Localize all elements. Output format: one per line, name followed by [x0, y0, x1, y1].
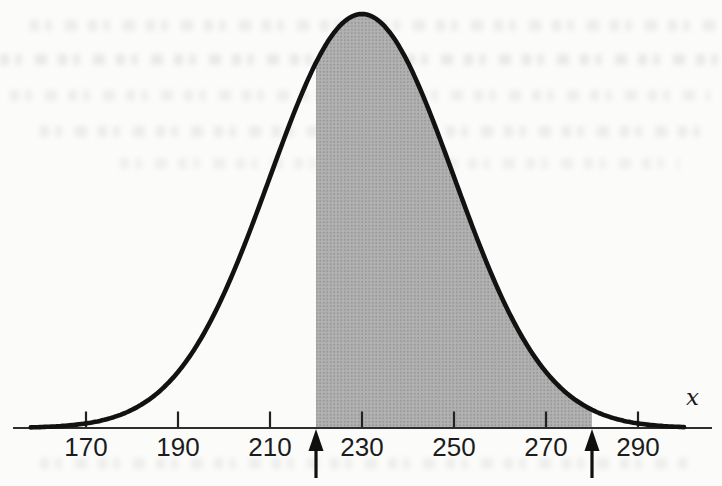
axis-tick-label: 290 — [616, 432, 659, 462]
normal-curve-figure: 170190210230250270290 — [0, 0, 722, 486]
axis-tick-label: 250 — [432, 432, 475, 462]
shaded-probability-area — [316, 14, 592, 428]
axis-tick-label: 270 — [524, 432, 567, 462]
boundary-arrow-stem — [314, 449, 317, 478]
boundary-arrow-stem — [590, 449, 593, 478]
x-axis-label: x — [686, 386, 699, 409]
axis-tick-label: 170 — [64, 432, 107, 462]
axis-tick-label: 210 — [248, 432, 291, 462]
scanned-page: 170190210230250270290 x — [0, 0, 722, 486]
axis-tick-label: 230 — [340, 432, 383, 462]
axis-tick-label: 190 — [156, 432, 199, 462]
boundary-arrow-head — [585, 429, 600, 451]
boundary-arrow-head — [309, 429, 324, 451]
